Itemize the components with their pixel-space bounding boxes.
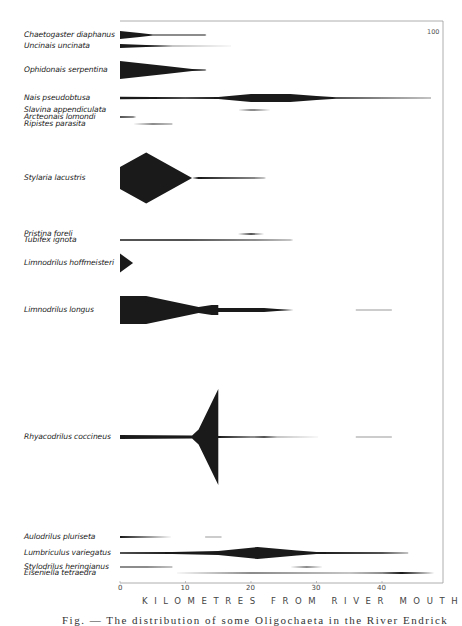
x-tick-label: 20 xyxy=(246,584,255,592)
species-label: Uncinais uncinata xyxy=(24,41,90,50)
kite-shape xyxy=(120,116,136,118)
x-axis-label: KILOMETRES FROM RIVER MOUTH xyxy=(142,596,462,606)
kite-shape xyxy=(120,536,172,538)
kite-shape xyxy=(120,239,294,241)
species-label: Ophidonais serpentina xyxy=(24,65,108,74)
species-label: Tubifex ignota xyxy=(24,235,77,244)
scale-annotation: 100 xyxy=(427,28,439,36)
species-label: Limnodrilus longus xyxy=(24,305,94,314)
x-tick-label: 10 xyxy=(181,584,190,592)
species-label: Rhyacodrilus coccineus xyxy=(24,432,111,441)
figure-caption: Fig. — The distribution of some Oligocha… xyxy=(62,614,448,626)
kite-shape xyxy=(120,153,266,204)
species-label: Aulodrilus pluriseta xyxy=(24,532,95,541)
x-tick-label: 0 xyxy=(118,584,122,592)
kite-shape xyxy=(120,44,238,48)
x-tick-label: 40 xyxy=(377,584,386,592)
kite-shape xyxy=(120,389,323,485)
kite-shape xyxy=(290,566,323,567)
species-label: Stylaria lacustris xyxy=(24,173,85,182)
kite-shape xyxy=(120,566,172,567)
species-label: Lumbriculus variegatus xyxy=(24,548,111,557)
kite-shape xyxy=(238,109,271,110)
species-label: Eiseniella tetraedra xyxy=(24,568,96,577)
kite-shape xyxy=(120,61,207,79)
kite-shape xyxy=(238,233,264,235)
kite-shape xyxy=(133,123,172,124)
kite-shape xyxy=(172,572,434,574)
kite-shape xyxy=(120,94,431,102)
species-label: Limnodrilus hoffmeisteri xyxy=(24,258,114,267)
x-tick-label: 30 xyxy=(312,584,321,592)
kite-shape xyxy=(120,547,408,559)
species-label: Chaetogaster diaphanus xyxy=(24,30,115,39)
species-label: Nais pseudobtusa xyxy=(24,93,90,102)
species-label: Ripistes parasita xyxy=(24,119,86,128)
kite-shape xyxy=(120,31,207,39)
kite-shape xyxy=(120,254,133,273)
kite-shape xyxy=(120,296,294,324)
